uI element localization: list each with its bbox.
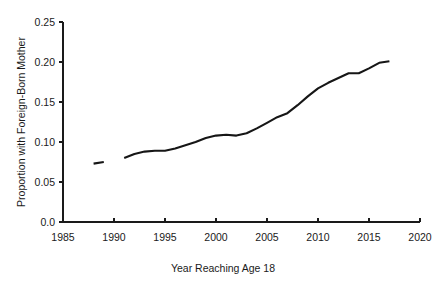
x-axis-tick-labels: 19851990199520002005201020152020: [51, 231, 432, 243]
y-axis-tick-labels: 0.00.050.100.150.200.25: [35, 16, 56, 228]
y-tick-label: 0.10: [35, 136, 56, 148]
y-tick-label: 0.20: [35, 56, 56, 68]
x-tick-label: 1985: [51, 231, 75, 243]
x-axis-title: Year Reaching Age 18: [171, 262, 275, 274]
y-axis-title: Proportion with Foreign-Born Mother: [15, 37, 27, 207]
x-tick-label: 1990: [102, 231, 126, 243]
data-line-segment-0: [94, 162, 104, 164]
y-tick-label: 0.25: [35, 16, 56, 28]
x-tick-label: 2005: [255, 231, 279, 243]
chart-figure: 0.00.050.100.150.200.25 1985199019952000…: [0, 0, 447, 295]
y-tick-label: 0.15: [35, 96, 56, 108]
x-tick-label: 2010: [306, 231, 330, 243]
data-line-segment-1: [124, 61, 389, 158]
x-tick-label: 2000: [204, 231, 228, 243]
x-tick-label: 2020: [408, 231, 432, 243]
axis-tick-marks: [59, 22, 420, 222]
y-tick-label: 0.05: [35, 176, 56, 188]
data-series-group: [94, 61, 390, 163]
x-tick-label: 1995: [153, 231, 177, 243]
line-chart: 0.00.050.100.150.200.25 1985199019952000…: [0, 0, 447, 295]
x-tick-label: 2015: [357, 231, 381, 243]
y-tick-label: 0.0: [40, 216, 55, 228]
